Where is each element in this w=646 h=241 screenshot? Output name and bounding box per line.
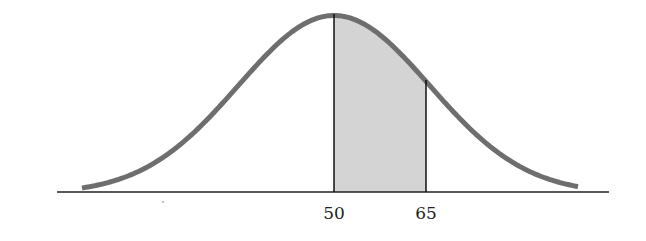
shaded-area <box>334 16 426 192</box>
bell-curve <box>82 16 578 188</box>
speck <box>162 201 164 203</box>
normal-curve-chart: 50 65 <box>0 0 646 241</box>
tick-label-50: 50 <box>323 203 345 223</box>
tick-label-65: 65 <box>415 203 437 223</box>
